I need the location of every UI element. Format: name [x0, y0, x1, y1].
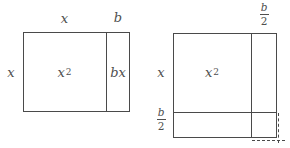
left-figure-area-bx: bx [106, 32, 130, 112]
right-figure-area-x-squared: x2 [173, 33, 251, 112]
right-figure-left-height-label: x [152, 33, 170, 112]
left-figure-area-x-squared: x2 [23, 32, 106, 112]
right-figure-bottom-strip-fraction: b 2 [152, 107, 170, 131]
fraction-numerator: b [261, 2, 268, 13]
missing-corner-dashed-bottom-line [252, 140, 285, 141]
fraction-numerator: b [158, 107, 165, 118]
left-figure-top-strip-label: b [106, 10, 130, 24]
right-figure-vertical-divider-line [251, 33, 252, 138]
x-squared-base: x [205, 66, 212, 79]
missing-corner-dashed-right-line [278, 113, 279, 143]
completing-the-square-diagram: x b x x2 bx b 2 x x2 b 2 [0, 0, 290, 148]
fraction-denominator: 2 [261, 16, 268, 27]
right-figure-top-strip-fraction: b 2 [251, 2, 277, 26]
left-figure-top-width-label: x [23, 11, 106, 25]
x-squared-exponent: 2 [66, 68, 72, 77]
x-squared-base: x [57, 66, 64, 79]
left-figure-left-height-label: x [2, 32, 20, 112]
right-figure-horizontal-divider-line [173, 112, 277, 113]
fraction-denominator: 2 [158, 121, 165, 132]
x-squared-exponent: 2 [213, 68, 219, 77]
